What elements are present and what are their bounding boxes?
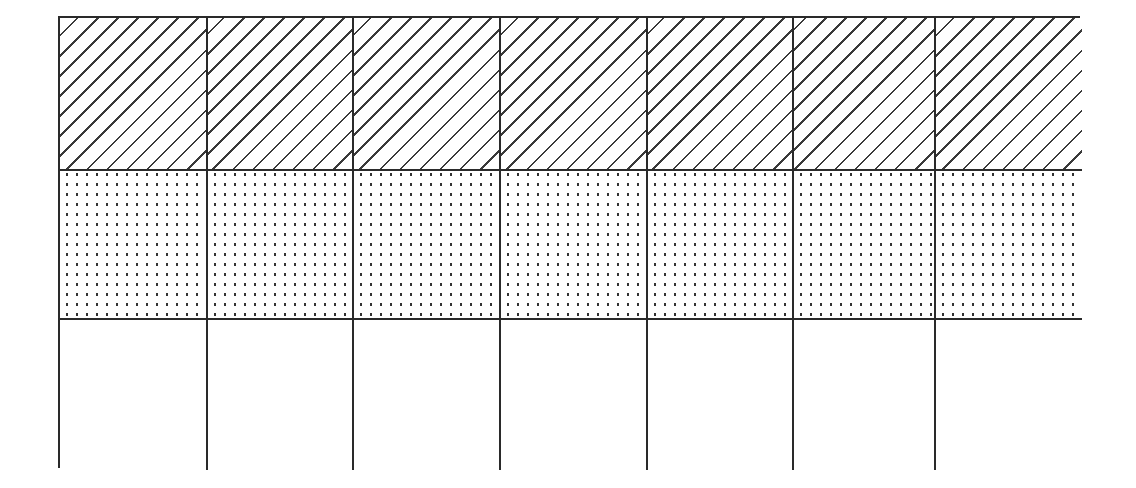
hatched-cell-r1-c1 [60,18,208,171]
blank-cell-r3-c1 [60,320,208,470]
dotted-cell-r2-c5 [648,171,794,320]
fraction-grid [58,16,1080,468]
hatched-cell-r1-c5 [648,18,794,171]
hatched-cell-r1-c7 [936,18,1082,171]
dotted-cell-r2-c3 [354,171,501,320]
blank-cell-r3-c2 [208,320,354,470]
dotted-cell-r2-c6 [794,171,936,320]
hatched-cell-r1-c3 [354,18,501,171]
dotted-cell-r2-c2 [208,171,354,320]
hatched-cell-r1-c4 [501,18,648,171]
blank-cell-r3-c6 [794,320,936,470]
dotted-cell-r2-c4 [501,171,648,320]
dotted-cell-r2-c7 [936,171,1082,320]
hatched-cell-r1-c6 [794,18,936,171]
blank-cell-r3-c5 [648,320,794,470]
blank-cell-r3-c7 [936,320,1082,470]
blank-cell-r3-c3 [354,320,501,470]
hatched-cell-r1-c2 [208,18,354,171]
blank-cell-r3-c4 [501,320,648,470]
dotted-cell-r2-c1 [60,171,208,320]
